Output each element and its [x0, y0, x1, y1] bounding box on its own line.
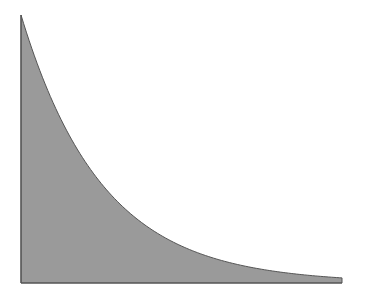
decay-area-chart: [0, 0, 369, 302]
area-fill: [21, 15, 342, 283]
